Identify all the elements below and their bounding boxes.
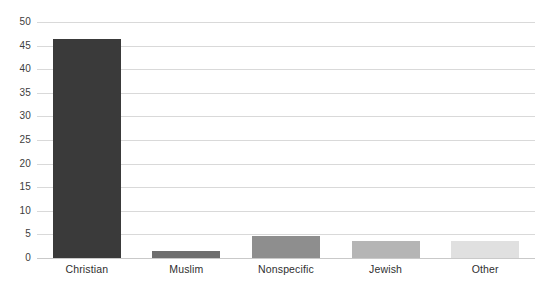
y-axis-tick-label: 50: [5, 17, 31, 27]
x-axis-tick-label: Nonspecific: [236, 262, 336, 276]
y-axis-tick-label: 5: [5, 229, 31, 239]
bar-slot: [435, 22, 535, 258]
y-axis-tick-label: 30: [5, 111, 31, 121]
y-axis-tick-label: 40: [5, 64, 31, 74]
bars-layer: [37, 22, 535, 258]
bar-nonspecific[interactable]: [252, 236, 320, 258]
y-axis-tick-label: 25: [5, 135, 31, 145]
x-axis: ChristianMuslimNonspecificJewishOther: [37, 262, 535, 282]
bar-muslim[interactable]: [152, 251, 220, 258]
axis-baseline: [37, 258, 535, 259]
bar-slot: [236, 22, 336, 258]
y-axis-tick-label: 10: [5, 206, 31, 216]
x-axis-tick-label: Other: [435, 262, 535, 276]
bar-slot: [37, 22, 137, 258]
x-axis-tick-label: Christian: [37, 262, 137, 276]
x-axis-tick-label: Jewish: [336, 262, 436, 276]
bar-slot: [336, 22, 436, 258]
bar-jewish[interactable]: [352, 241, 420, 258]
bar-other[interactable]: [451, 241, 519, 258]
bar-chart: 50454035302520151050 ChristianMuslimNons…: [0, 0, 547, 298]
y-axis-tick-label: 20: [5, 159, 31, 169]
y-axis-tick-label: 15: [5, 182, 31, 192]
bar-christian[interactable]: [53, 39, 121, 258]
y-axis: 50454035302520151050: [0, 22, 31, 258]
x-axis-tick-label: Muslim: [137, 262, 237, 276]
y-axis-tick-label: 35: [5, 88, 31, 98]
y-axis-tick-label: 45: [5, 41, 31, 51]
bar-slot: [137, 22, 237, 258]
y-axis-tick-label: 0: [5, 253, 31, 263]
